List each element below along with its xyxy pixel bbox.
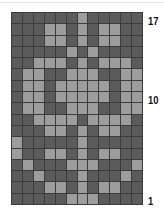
stitch-cell-r7-c1 <box>12 126 22 136</box>
stitch-cell-r17-c6 <box>67 13 77 23</box>
stitch-cell-r14-c10 <box>110 47 120 57</box>
stitch-cell-r1-c1 <box>12 194 22 204</box>
stitch-cell-r9-c6 <box>67 103 77 113</box>
stitch-cell-r5-c5 <box>56 149 66 159</box>
stitch-cell-r3-c5 <box>56 171 66 181</box>
stitch-cell-r4-c10 <box>110 160 120 170</box>
stitch-cell-r6-c2 <box>23 137 33 147</box>
stitch-cell-r16-c10 <box>110 24 120 34</box>
stitch-cell-r6-c8 <box>88 137 98 147</box>
stitch-cell-r12-c11 <box>121 69 131 79</box>
stitch-cell-r9-c10 <box>110 103 120 113</box>
stitch-cell-r5-c11 <box>121 149 131 159</box>
stitch-cell-r17-c2 <box>23 13 33 23</box>
stitch-cell-r4-c4 <box>45 160 55 170</box>
stitch-cell-r8-c4 <box>45 115 55 125</box>
stitch-cell-r11-c7 <box>78 81 88 91</box>
stitch-cell-r13-c12 <box>132 58 142 68</box>
stitch-cell-r13-c3 <box>34 58 44 68</box>
stitch-cell-r15-c8 <box>88 36 98 46</box>
stitch-cell-r16-c6 <box>67 24 77 34</box>
stitch-cell-r1-c2 <box>23 194 33 204</box>
stitch-cell-r1-c11 <box>121 194 131 204</box>
stitch-cell-r5-c12 <box>132 149 142 159</box>
stitch-cell-r16-c8 <box>88 24 98 34</box>
stitch-cell-r6-c11 <box>121 137 131 147</box>
stitch-cell-r14-c2 <box>23 47 33 57</box>
stitch-cell-r17-c11 <box>121 13 131 23</box>
stitch-cell-r1-c10 <box>110 194 120 204</box>
stitch-cell-r16-c5 <box>56 24 66 34</box>
stitch-cell-r10-c10 <box>110 92 120 102</box>
stitch-cell-r12-c2 <box>23 69 33 79</box>
row-label-17: 17 <box>148 16 158 27</box>
stitch-cell-r2-c4 <box>45 182 55 192</box>
stitch-cell-r9-c7 <box>78 103 88 113</box>
top-border-line <box>0 2 164 3</box>
stitch-cell-r13-c1 <box>12 58 22 68</box>
stitch-cell-r9-c11 <box>121 103 131 113</box>
stitch-cell-r16-c3 <box>34 24 44 34</box>
stitch-cell-r1-c7 <box>78 194 88 204</box>
stitch-cell-r6-c12 <box>132 137 142 147</box>
stitch-cell-r12-c1 <box>12 69 22 79</box>
stitch-cell-r5-c9 <box>99 149 109 159</box>
stitch-cell-r5-c7 <box>78 149 88 159</box>
stitch-cell-r17-c3 <box>34 13 44 23</box>
stitch-cell-r1-c12 <box>132 194 142 204</box>
stitch-cell-r10-c4 <box>45 92 55 102</box>
stitch-cell-r10-c11 <box>121 92 131 102</box>
stitch-cell-r4-c7 <box>78 160 88 170</box>
stitch-cell-r9-c5 <box>56 103 66 113</box>
stitch-cell-r7-c10 <box>110 126 120 136</box>
stitch-cell-r4-c2 <box>23 160 33 170</box>
stitch-cell-r11-c4 <box>45 81 55 91</box>
stitch-cell-r4-c9 <box>99 160 109 170</box>
stitch-cell-r15-c2 <box>23 36 33 46</box>
stitch-cell-r13-c9 <box>99 58 109 68</box>
stitch-cell-r14-c5 <box>56 47 66 57</box>
stitch-cell-r7-c3 <box>34 126 44 136</box>
stitch-cell-r10-c1 <box>12 92 22 102</box>
stitch-cell-r2-c1 <box>12 182 22 192</box>
stitch-cell-r3-c1 <box>12 171 22 181</box>
stitch-cell-r7-c11 <box>121 126 131 136</box>
stitch-cell-r4-c6 <box>67 160 77 170</box>
stitch-cell-r9-c9 <box>99 103 109 113</box>
stitch-cell-r13-c6 <box>67 58 77 68</box>
stitch-cell-r16-c1 <box>12 24 22 34</box>
stitch-cell-r7-c9 <box>99 126 109 136</box>
stitch-cell-r17-c4 <box>45 13 55 23</box>
stitch-cell-r3-c7 <box>78 171 88 181</box>
stitch-cell-r6-c7 <box>78 137 88 147</box>
stitch-cell-r7-c6 <box>67 126 77 136</box>
stitch-cell-r11-c12 <box>132 81 142 91</box>
stitch-cell-r11-c5 <box>56 81 66 91</box>
stitch-cell-r14-c4 <box>45 47 55 57</box>
stitch-cell-r10-c2 <box>23 92 33 102</box>
stitch-cell-r3-c6 <box>67 171 77 181</box>
stitch-cell-r13-c5 <box>56 58 66 68</box>
stitch-cell-r15-c7 <box>78 36 88 46</box>
stitch-cell-r14-c6 <box>67 47 77 57</box>
stitch-cell-r9-c8 <box>88 103 98 113</box>
stitch-cell-r5-c3 <box>34 149 44 159</box>
stitch-cell-r2-c11 <box>121 182 131 192</box>
stitch-cell-r9-c3 <box>34 103 44 113</box>
knitting-chart-grid <box>11 12 143 205</box>
stitch-cell-r13-c8 <box>88 58 98 68</box>
stitch-cell-r11-c11 <box>121 81 131 91</box>
stitch-cell-r15-c12 <box>132 36 142 46</box>
stitch-cell-r13-c2 <box>23 58 33 68</box>
stitch-cell-r1-c4 <box>45 194 55 204</box>
stitch-cell-r7-c4 <box>45 126 55 136</box>
stitch-cell-r12-c5 <box>56 69 66 79</box>
stitch-cell-r12-c4 <box>45 69 55 79</box>
stitch-cell-r14-c9 <box>99 47 109 57</box>
stitch-cell-r1-c9 <box>99 194 109 204</box>
stitch-cell-r14-c8 <box>88 47 98 57</box>
stitch-cell-r13-c11 <box>121 58 131 68</box>
stitch-cell-r11-c10 <box>110 81 120 91</box>
stitch-cell-r3-c3 <box>34 171 44 181</box>
stitch-cell-r8-c3 <box>34 115 44 125</box>
